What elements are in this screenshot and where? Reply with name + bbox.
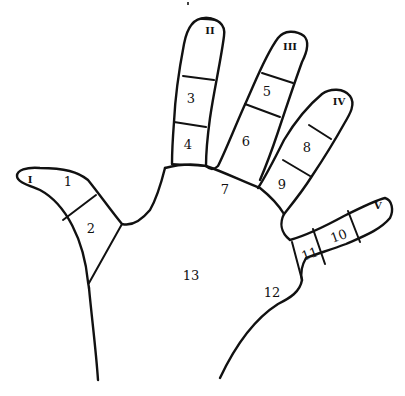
finger-label-II: II bbox=[205, 25, 215, 36]
region-label-7: 7 bbox=[221, 182, 229, 197]
region-label-8: 8 bbox=[303, 140, 311, 155]
region-label-6: 6 bbox=[242, 134, 250, 149]
finger-labels: I II III IV V bbox=[28, 25, 382, 211]
index-divider-tip-3 bbox=[183, 76, 214, 80]
region-label-2: 2 bbox=[87, 221, 95, 236]
middle-divider-tip-5 bbox=[262, 73, 293, 83]
region-label-5: 5 bbox=[263, 84, 271, 99]
middle-divider-5-6 bbox=[245, 104, 280, 117]
little-divider-tip-10 bbox=[348, 211, 360, 242]
region-label-4: 4 bbox=[184, 137, 192, 152]
hand-diagram: I II III IV V 1 2 3 4 5 6 7 8 9 10 11 12… bbox=[0, 0, 405, 396]
region-label-3: 3 bbox=[187, 91, 195, 106]
finger-label-IV: IV bbox=[333, 96, 346, 107]
palm-right-edge bbox=[220, 280, 302, 378]
index-divider-3-4 bbox=[174, 122, 206, 127]
region-label-9: 9 bbox=[278, 177, 286, 192]
region-label-12: 12 bbox=[264, 285, 281, 300]
region-label-13: 13 bbox=[183, 268, 200, 283]
region-label-1: 1 bbox=[64, 174, 72, 189]
index-finger bbox=[172, 17, 224, 166]
ring-divider-tip-8 bbox=[309, 125, 331, 139]
palm-left-edge bbox=[89, 288, 98, 380]
finger-label-V: V bbox=[373, 200, 382, 211]
region-labels: 1 2 3 4 5 6 7 8 9 10 11 12 13 bbox=[64, 84, 349, 300]
index-finger-outline bbox=[172, 18, 224, 166]
region-label-11: 11 bbox=[299, 244, 320, 264]
ring-divider-8-9 bbox=[283, 160, 310, 176]
little-divider-11-palm bbox=[292, 242, 302, 280]
thumb-divider-1-2 bbox=[63, 195, 96, 220]
finger-label-III: III bbox=[283, 41, 297, 52]
finger-label-I: I bbox=[28, 174, 33, 185]
